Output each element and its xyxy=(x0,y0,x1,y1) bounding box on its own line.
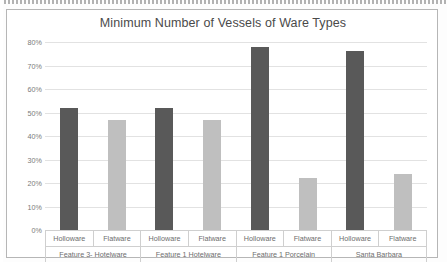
chart-page: Minimum Number of Vessels of Ware Types … xyxy=(0,0,447,265)
category-row-series: HollowareFlatwareHollowareFlatwareHollow… xyxy=(45,230,427,246)
category-label-flatware: Flatware xyxy=(93,230,141,246)
category-label-holloware: Holloware xyxy=(236,230,284,246)
gridline xyxy=(45,183,427,184)
y-axis-tick-label: 20% xyxy=(8,179,42,188)
group-label: Santa Barbara xyxy=(331,246,427,262)
y-axis-tick-label: 50% xyxy=(8,108,42,117)
category-axis: HollowareFlatwareHollowareFlatwareHollow… xyxy=(45,230,427,262)
bar-holloware-4 xyxy=(251,47,269,230)
gridline xyxy=(45,42,427,43)
gridline xyxy=(45,207,427,208)
group-label: Feature 1 Hotelware xyxy=(140,246,235,262)
category-label-holloware: Holloware xyxy=(45,230,93,246)
y-axis-tick-label: 80% xyxy=(8,38,42,47)
group-label: Feature 1 Porcelain xyxy=(236,246,331,262)
category-label-holloware: Holloware xyxy=(331,230,379,246)
chart-title: Minimum Number of Vessels of Ware Types xyxy=(7,16,439,30)
scan-edge-left xyxy=(0,0,3,265)
y-axis-tick-label: 60% xyxy=(8,85,42,94)
category-row-groups: Feature 3- HotelwareFeature 1 HotelwareF… xyxy=(45,246,427,262)
group-label: Feature 3- Hotelware xyxy=(45,246,140,262)
bar-flatware-3 xyxy=(203,120,221,230)
scan-artifact-strip xyxy=(0,0,447,4)
y-axis-tick-label: 10% xyxy=(8,202,42,211)
category-label-flatware: Flatware xyxy=(378,230,427,246)
gridline xyxy=(45,89,427,90)
bar-holloware-0 xyxy=(60,108,78,230)
chart-frame: Minimum Number of Vessels of Ware Types … xyxy=(6,9,438,258)
gridline xyxy=(45,160,427,161)
bar-flatware-1 xyxy=(108,120,126,230)
category-label-flatware: Flatware xyxy=(283,230,331,246)
bar-holloware-2 xyxy=(155,108,173,230)
category-label-holloware: Holloware xyxy=(140,230,188,246)
bar-flatware-5 xyxy=(299,178,317,230)
category-label-flatware: Flatware xyxy=(188,230,236,246)
plot-area: 80%70%60%50%40%30%20%10%0% xyxy=(45,42,427,230)
bar-holloware-6 xyxy=(346,51,364,230)
gridline xyxy=(45,136,427,137)
y-axis-tick-label: 40% xyxy=(8,132,42,141)
bar-flatware-7 xyxy=(394,174,412,230)
gridline xyxy=(45,66,427,67)
y-axis-tick-label: 0% xyxy=(8,226,42,235)
gridline xyxy=(45,113,427,114)
y-axis-tick-label: 70% xyxy=(8,61,42,70)
y-axis-tick-label: 30% xyxy=(8,155,42,164)
